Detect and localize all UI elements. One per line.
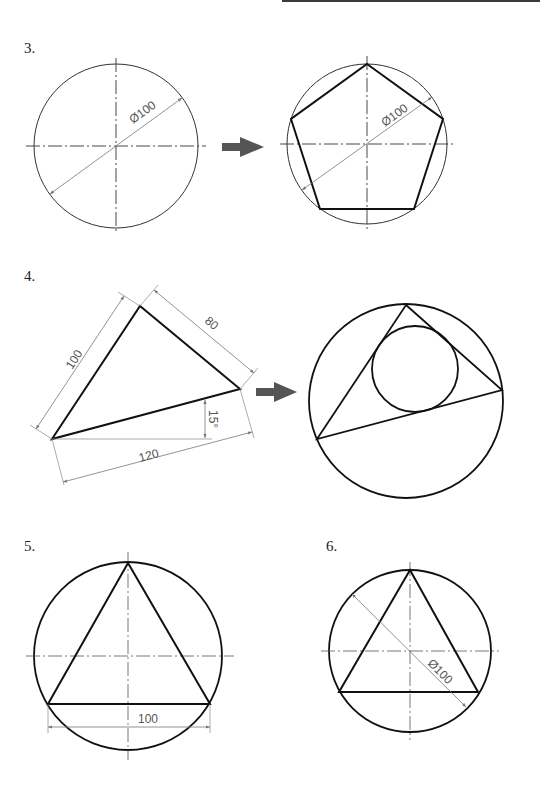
problem-6-diameter-label: Ø100	[425, 656, 456, 687]
problem-4-triangle-figure: 100 80 120 15°	[30, 285, 258, 485]
problem-4-result-figure	[309, 304, 503, 498]
problem-5-figure: 100	[26, 552, 234, 760]
problem-3-diameter-label: Ø100	[127, 98, 159, 127]
side-120-label: 120	[137, 446, 160, 465]
problem-3-pentagon-figure: Ø100	[280, 56, 456, 232]
drawing-canvas: Ø100 Ø100 100 80 120 15°	[0, 0, 540, 787]
arrow-right-icon	[256, 382, 297, 402]
arrow-right-icon	[222, 137, 264, 157]
side-100-label: 100	[63, 347, 86, 372]
angle-15-label: 15°	[206, 410, 220, 428]
problem-3-circle-figure: Ø100	[26, 58, 206, 234]
side-80-label: 80	[202, 314, 221, 334]
problem-6-figure: Ø100	[321, 562, 499, 740]
problem-3-pentagon-diameter-label: Ø100	[379, 101, 411, 130]
problem-5-base-label: 100	[138, 712, 158, 726]
